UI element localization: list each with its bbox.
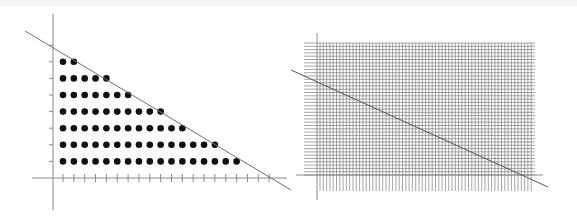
lattice-dot [103,108,110,115]
lattice-dot [125,108,132,115]
left-y-ticks [49,45,53,161]
left-lattice-dots [60,59,240,165]
right-vertical-grid-lines [320,43,531,191]
lattice-dot [201,158,208,165]
lattice-dot [92,125,99,132]
lattice-diagrams [0,0,577,223]
lattice-dot [60,75,67,82]
lattice-dot [60,125,67,132]
lattice-dot [147,142,154,149]
lattice-dot [179,158,186,165]
lattice-dot [125,158,132,165]
lattice-dot [103,92,110,99]
lattice-dot [60,59,67,66]
lattice-dot [60,158,67,165]
lattice-dot [81,108,88,115]
lattice-dot [71,92,78,99]
lattice-dot [60,142,67,149]
lattice-dot [212,158,219,165]
lattice-dot [168,142,175,149]
lattice-dot [92,142,99,149]
lattice-dot [92,92,99,99]
lattice-dot [157,142,164,149]
lattice-dot [157,125,164,132]
lattice-dot [125,125,132,132]
lattice-dot [114,92,121,99]
lattice-dot [168,125,175,132]
lattice-dot [201,142,208,149]
lattice-dot [125,142,132,149]
lattice-dot [92,108,99,115]
lattice-dot [190,158,197,165]
right-panel-grid [291,33,548,200]
left-panel-lattice-points [25,14,291,210]
lattice-dot [136,108,143,115]
lattice-dot [114,108,121,115]
right-horizontal-grid-lines [304,43,535,175]
lattice-dot [71,142,78,149]
lattice-dot [81,158,88,165]
lattice-dot [71,125,78,132]
lattice-dot [81,142,88,149]
lattice-dot [71,75,78,82]
lattice-dot [136,158,143,165]
lattice-dot [157,158,164,165]
lattice-dot [114,125,121,132]
lattice-dot [168,158,175,165]
lattice-dot [92,158,99,165]
lattice-dot [136,125,143,132]
lattice-dot [222,158,229,165]
lattice-dot [147,108,154,115]
lattice-dot [81,75,88,82]
lattice-dot [147,158,154,165]
lattice-dot [60,108,67,115]
lattice-dot [71,108,78,115]
lattice-dot [114,142,121,149]
lattice-dot [147,125,154,132]
lattice-dot [103,158,110,165]
lattice-dot [190,142,197,149]
lattice-dot [114,158,121,165]
lattice-dot [179,142,186,149]
lattice-dot [81,125,88,132]
lattice-dot [81,92,88,99]
lattice-dot [71,158,78,165]
lattice-dot [136,142,143,149]
lattice-dot [60,92,67,99]
lattice-dot [92,75,99,82]
lattice-dot [103,142,110,149]
lattice-dot [103,125,110,132]
